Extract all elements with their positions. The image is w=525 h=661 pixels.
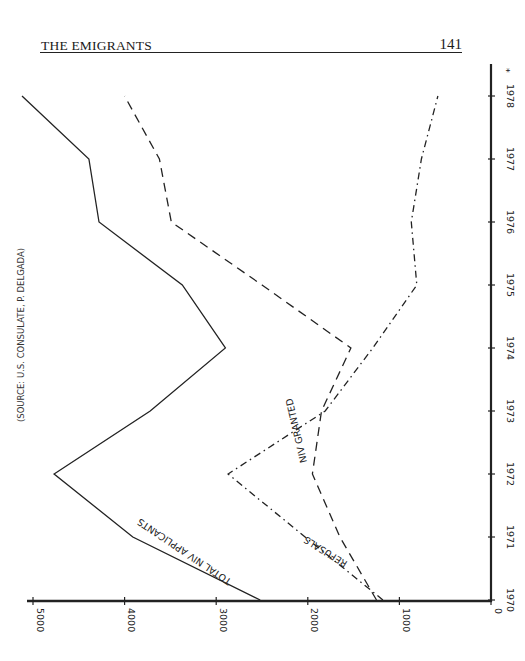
chart-series (22, 96, 438, 600)
year-tick-label: 1971 (505, 525, 516, 549)
year-tick-label: 1976 (505, 210, 516, 234)
value-tick-label: 5000 (35, 608, 46, 632)
series-label: REFUSALS (302, 534, 349, 569)
value-tick-label: 3000 (218, 608, 229, 632)
value-tick-label: 0 (493, 608, 504, 614)
corner-mark: * (501, 68, 512, 73)
year-tick-label: 1970 (505, 588, 516, 612)
year-tick-label: 1974 (505, 336, 516, 360)
series-label: NIV GRANTED (283, 398, 309, 465)
value-tick-label: 1000 (401, 608, 412, 632)
value-tick-label: 2000 (309, 608, 320, 632)
year-tick-label: 1972 (505, 462, 516, 486)
year-tick-label: 1977 (505, 147, 516, 171)
value-tick-label: 4000 (126, 608, 137, 632)
source-note: (SOURCE: U.S. CONSULATE, P. DELGADA) (16, 248, 26, 422)
series-line-refusals (228, 96, 438, 600)
year-tick-label: 1973 (505, 399, 516, 423)
chart-labels: 0100020003000400050001970197119721973197… (16, 68, 516, 632)
year-tick-label: 1978 (505, 84, 516, 108)
series-label: TOTAL NIV APPLICANTS (135, 516, 234, 588)
line-chart: 0100020003000400050001970197119721973197… (0, 0, 525, 661)
series-line-niv-granted (125, 96, 377, 600)
year-tick-label: 1975 (505, 273, 516, 297)
